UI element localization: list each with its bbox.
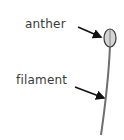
filament (101, 46, 110, 135)
filament-arrow (75, 87, 104, 98)
anther-arrow (78, 27, 101, 37)
stamen-diagram (0, 0, 124, 140)
